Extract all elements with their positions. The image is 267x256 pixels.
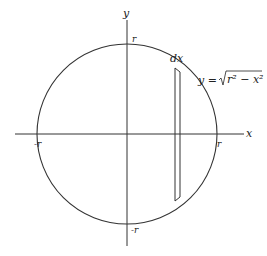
dx-label: dx bbox=[170, 52, 184, 65]
circle-area-diagram: y x r -r -r r dx y = r² − x² bbox=[0, 0, 267, 256]
diagram-canvas: y x r -r -r r dx y = r² − x² bbox=[0, 0, 267, 256]
curve-equation: y = r² − x² bbox=[197, 71, 264, 87]
equation-radicand: r² − x² bbox=[227, 73, 264, 86]
tick-y-pos-r: r bbox=[132, 34, 137, 44]
y-axis-label: y bbox=[122, 7, 130, 20]
tick-y-neg-r: -r bbox=[131, 225, 139, 235]
equation-lhs: y = bbox=[197, 74, 220, 87]
tick-x-neg-r: -r bbox=[34, 139, 42, 149]
tick-x-pos-r: r bbox=[217, 139, 222, 149]
x-axis-label: x bbox=[246, 127, 253, 140]
